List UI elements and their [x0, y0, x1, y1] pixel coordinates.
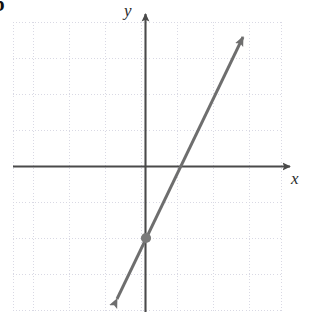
graph-figure: b: [0, 0, 309, 315]
x-axis-label: x: [291, 170, 299, 187]
y-intercept-point: [141, 233, 151, 243]
plotted-line: [117, 37, 243, 299]
y-axis-label: y: [124, 2, 132, 19]
coordinate-plane: [0, 0, 309, 315]
